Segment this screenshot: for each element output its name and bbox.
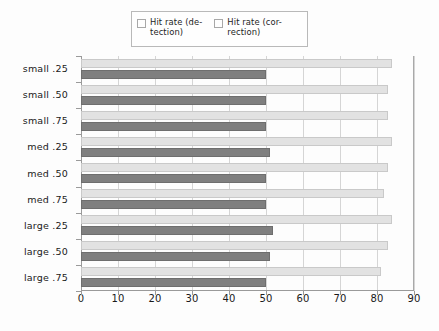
legend-label-correction: Hit rate (cor- rection) (227, 17, 282, 37)
bar-detection (81, 59, 392, 68)
bar-chart: Hit rate (de- tection) Hit rate (cor- re… (0, 0, 439, 331)
bar-detection (81, 189, 384, 198)
bar-group (81, 215, 414, 241)
y-axis-label: large .50 (24, 246, 68, 257)
y-axis-label: small .75 (23, 115, 68, 126)
bar-group (81, 111, 414, 137)
y-axis-label: med .75 (27, 194, 68, 205)
bar-correction (81, 148, 270, 157)
y-axis-label: large .25 (24, 220, 68, 231)
x-axis: 0102030405060708090 (0, 293, 439, 313)
bar-group (81, 59, 414, 85)
bar-group (81, 241, 414, 267)
x-axis-tick (192, 291, 193, 295)
x-axis-tick (377, 291, 378, 295)
bar-detection (81, 215, 392, 224)
x-axis-line (81, 290, 414, 291)
bar-detection (81, 163, 388, 172)
x-axis-tick (229, 291, 230, 295)
bar-group (81, 163, 414, 189)
x-axis-tick (414, 291, 415, 295)
bar-correction (81, 278, 266, 287)
bar-detection (81, 137, 392, 146)
x-axis-tick (340, 291, 341, 295)
bar-detection (81, 241, 388, 250)
right-axis-line (413, 56, 414, 291)
legend-label-detection: Hit rate (de- tection) (150, 17, 202, 37)
x-axis-tick (266, 291, 267, 295)
bar-correction (81, 200, 266, 209)
x-axis-tick (155, 291, 156, 295)
bar-correction (81, 96, 266, 105)
y-axis-label: small .50 (23, 89, 68, 100)
legend-swatch-detection-icon (137, 19, 146, 28)
bar-correction (81, 252, 270, 261)
bar-correction (81, 174, 266, 183)
legend-swatch-correction-icon (214, 19, 223, 28)
y-axis-label: small .25 (23, 63, 68, 74)
bar-series-container (81, 56, 414, 291)
bar-correction (81, 70, 266, 79)
bar-group (81, 137, 414, 163)
y-axis-label: med .25 (27, 141, 68, 152)
legend-entry-detection: Hit rate (de- tection) (137, 17, 202, 37)
y-axis-label: large .75 (24, 272, 68, 283)
x-axis-tick (118, 291, 119, 295)
bar-group (81, 85, 414, 111)
bar-detection (81, 267, 381, 276)
y-axis-label: med .50 (27, 168, 68, 179)
gridline-90 (414, 56, 415, 291)
bar-correction (81, 226, 273, 235)
bar-detection (81, 85, 388, 94)
plot-area (81, 56, 414, 291)
legend-entry-correction: Hit rate (cor- rection) (214, 17, 282, 37)
x-axis-tick (303, 291, 304, 295)
bar-detection (81, 111, 388, 120)
x-axis-tick (81, 291, 82, 295)
bar-correction (81, 122, 266, 131)
chart-legend: Hit rate (de- tection) Hit rate (cor- re… (131, 11, 308, 47)
bar-group (81, 189, 414, 215)
y-axis: small .25small .50small .75med .25med .5… (0, 56, 76, 291)
